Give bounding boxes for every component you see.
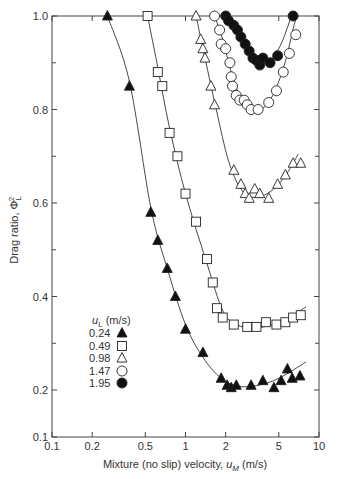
x-tick-label: 1 (182, 440, 188, 452)
legend-entry-label: 1.95 (89, 377, 110, 389)
data-point-0.49 (165, 128, 174, 137)
legend-entry-label: 0.98 (89, 352, 110, 364)
data-point-0.49 (192, 217, 201, 226)
data-point-0.98 (191, 11, 201, 21)
y-tick-label: 0.8 (33, 104, 48, 116)
data-point-0.24 (276, 375, 286, 385)
data-point-1.47 (228, 81, 238, 91)
data-point-0.24 (162, 263, 172, 273)
chart-svg: 0.10.20.5125100.10.20.40.60.81.0 uL (m/s… (0, 0, 339, 479)
x-tick-label: 2 (223, 440, 229, 452)
fit-curve-0.24 (107, 16, 306, 387)
data-point-0.24 (258, 375, 268, 385)
legend-marker-0.98 (117, 353, 127, 363)
x-tick-label: 0.2 (85, 440, 100, 452)
y-tick-label: 0.4 (33, 291, 48, 303)
fit-curves (107, 16, 306, 387)
chart-figure: 0.10.20.5125100.10.20.40.60.81.0 uL (m/s… (0, 0, 339, 479)
x-axis-title: Mixture (no slip) velocity, uM (m/s) (103, 458, 267, 473)
data-point-1.47 (291, 30, 301, 40)
data-point-0.49 (212, 304, 221, 313)
legend: uL (m/s)0.240.490.981.471.95 (89, 314, 131, 389)
data-point-0.49 (143, 12, 152, 21)
data-point-0.98 (196, 34, 206, 44)
data-point-0.24 (216, 373, 226, 383)
data-point-1.47 (215, 25, 225, 35)
legend-marker-1.47 (117, 366, 127, 376)
y-tick-label: 1.0 (33, 10, 48, 22)
data-point-0.49 (229, 320, 238, 329)
data-point-0.24 (102, 11, 112, 21)
data-point-0.49 (208, 278, 217, 287)
data-point-0.49 (181, 189, 190, 198)
data-point-0.24 (287, 373, 297, 383)
data-point-0.98 (198, 43, 208, 53)
legend-marker-0.49 (118, 342, 127, 351)
data-point-1.47 (271, 86, 281, 96)
data-point-0.98 (273, 179, 283, 189)
data-point-0.49 (158, 82, 167, 91)
data-point-0.24 (153, 235, 163, 245)
legend-entry-label: 1.47 (89, 365, 110, 377)
data-point-1.47 (210, 11, 220, 21)
data-point-0.24 (246, 380, 256, 390)
data-point-0.98 (296, 158, 306, 168)
y-tick-label: 0.1 (33, 431, 48, 443)
data-point-0.24 (282, 363, 292, 373)
y-tick-label: 0.2 (33, 384, 48, 396)
data-point-0.49 (261, 318, 270, 327)
data-point-1.47 (221, 44, 231, 54)
data-point-0.49 (243, 322, 252, 331)
legend-marker-0.24 (117, 328, 127, 338)
x-tick-label: 10 (313, 440, 325, 452)
x-tick-label: 5 (276, 440, 282, 452)
legend-entry-label: 0.49 (89, 340, 110, 352)
legend-entry-label: 0.24 (89, 327, 110, 339)
data-point-0.49 (153, 68, 162, 77)
data-point-0.24 (295, 370, 305, 380)
data-point-0.98 (200, 53, 210, 63)
data-point-0.49 (203, 255, 212, 264)
data-point-0.98 (210, 99, 220, 109)
data-points (102, 11, 305, 392)
x-tick-label: 0.5 (138, 440, 153, 452)
data-point-1.47 (264, 97, 274, 107)
data-point-0.24 (146, 207, 156, 217)
data-point-0.49 (173, 152, 182, 161)
data-point-0.24 (181, 324, 191, 334)
data-point-0.49 (272, 320, 281, 329)
data-point-0.49 (296, 311, 305, 320)
data-point-0.24 (170, 291, 180, 301)
data-point-0.49 (218, 313, 227, 322)
legend-marker-1.95 (117, 378, 127, 388)
data-point-0.98 (206, 81, 216, 91)
data-point-1.47 (284, 48, 294, 58)
data-point-1.47 (253, 105, 263, 115)
y-axis-title: Drag ratio, ΦL2 (7, 196, 23, 264)
data-point-0.24 (124, 81, 134, 91)
data-point-1.95 (288, 11, 298, 21)
data-point-1.47 (225, 58, 235, 68)
data-point-1.47 (226, 72, 236, 82)
data-point-1.95 (273, 51, 283, 61)
data-point-0.49 (252, 322, 261, 331)
data-point-1.47 (278, 67, 288, 77)
y-tick-label: 0.6 (33, 197, 48, 209)
